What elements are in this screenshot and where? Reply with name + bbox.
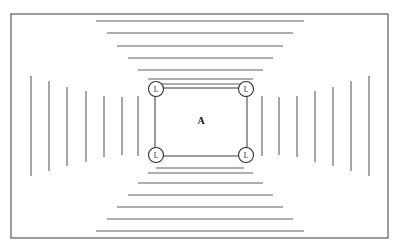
corner-marker-bottom-left: L — [149, 148, 164, 163]
marker-label: L — [244, 85, 249, 94]
marker-label: L — [244, 151, 249, 160]
diagram-canvas: A LLLL — [0, 0, 400, 252]
marker-label: L — [154, 151, 159, 160]
diagram-background — [0, 0, 400, 252]
excavation-diagram: A LLLL — [0, 0, 400, 252]
corner-marker-top-right: L — [239, 82, 254, 97]
marker-label: L — [154, 85, 159, 94]
corner-marker-top-left: L — [149, 82, 164, 97]
center-zone-label: A — [197, 115, 205, 126]
corner-marker-bottom-right: L — [239, 148, 254, 163]
